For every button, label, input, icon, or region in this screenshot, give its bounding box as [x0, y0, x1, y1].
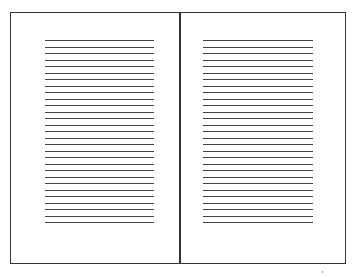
text-line: [203, 203, 313, 204]
text-line: [45, 157, 154, 158]
text-line: [45, 216, 154, 217]
text-line: [45, 209, 154, 210]
text-line: [203, 73, 313, 74]
text-line: [203, 60, 313, 61]
text-line: [203, 131, 313, 132]
text-line: [203, 183, 313, 184]
text-line: [45, 79, 154, 80]
text-line: [45, 183, 154, 184]
text-line: [203, 190, 313, 191]
text-line: [203, 53, 313, 54]
text-line: [203, 40, 313, 41]
text-line: [45, 99, 154, 100]
text-line: [203, 164, 313, 165]
text-line: [45, 138, 154, 139]
text-line: [45, 222, 154, 223]
text-line: [203, 125, 313, 126]
text-line: [45, 170, 154, 171]
text-line: [203, 157, 313, 158]
text-line: [203, 170, 313, 171]
text-line: [203, 177, 313, 178]
text-line: [45, 92, 154, 93]
text-line: [45, 53, 154, 54]
stray-mark: [322, 271, 323, 273]
text-line: [45, 60, 154, 61]
text-line: [203, 99, 313, 100]
text-line: [45, 125, 154, 126]
text-line: [203, 196, 313, 197]
text-line: [45, 112, 154, 113]
text-line: [45, 131, 154, 132]
text-line: [45, 105, 154, 106]
text-line: [203, 79, 313, 80]
text-line: [45, 118, 154, 119]
text-line: [203, 222, 313, 223]
text-line: [203, 151, 313, 152]
left-page: [11, 13, 179, 263]
text-line: [45, 73, 154, 74]
text-line: [45, 66, 154, 67]
text-line: [203, 105, 313, 106]
text-line: [45, 164, 154, 165]
text-line: [203, 138, 313, 139]
text-line: [45, 144, 154, 145]
text-line: [45, 47, 154, 48]
text-line: [203, 47, 313, 48]
text-line: [45, 203, 154, 204]
text-line: [45, 190, 154, 191]
text-line: [203, 216, 313, 217]
text-line: [45, 86, 154, 87]
text-line: [203, 209, 313, 210]
book-spread: [10, 12, 346, 264]
right-page: [181, 13, 347, 263]
text-line: [203, 118, 313, 119]
text-line: [45, 40, 154, 41]
text-line: [203, 112, 313, 113]
text-line: [45, 151, 154, 152]
text-line: [45, 177, 154, 178]
text-line: [45, 196, 154, 197]
text-line: [203, 86, 313, 87]
text-line: [203, 92, 313, 93]
text-line: [203, 144, 313, 145]
text-line: [203, 66, 313, 67]
